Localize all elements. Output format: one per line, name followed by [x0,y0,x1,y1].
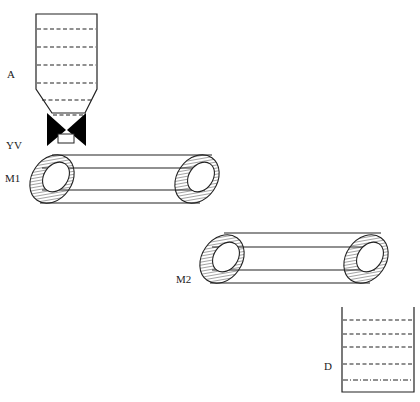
roller-icon [191,226,254,292]
roller-icon [166,146,229,212]
process-diagram: A YV M1 M2 D [0,0,420,402]
conveyor-m2 [191,226,398,292]
label-hopper: A [7,69,15,80]
label-conveyor-m2: M2 [176,274,191,285]
hopper-a [36,14,97,115]
label-conveyor-m1: M1 [5,173,20,184]
label-tank: D [324,361,332,372]
label-valve: YV [6,140,22,151]
conveyor-m1 [21,146,229,212]
roller-icon [335,226,398,292]
tank-d [342,307,414,392]
valve-yv-icon [47,113,86,146]
roller-icon [21,146,84,212]
